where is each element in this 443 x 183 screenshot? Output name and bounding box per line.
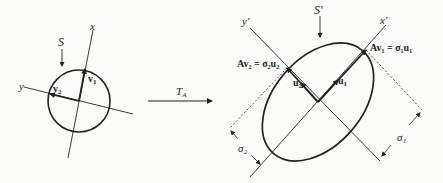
svd-diagram: S x y v1 v2 TA S' x' y' u1 u2 Av₁ = σ₁u₁: [0, 0, 443, 183]
y-axis-label: y: [18, 80, 24, 92]
u2-vector: [301, 83, 318, 102]
circle-label: S: [58, 35, 64, 49]
x-prime-axis-label: x': [379, 14, 388, 26]
ellipse-label: S': [314, 3, 323, 17]
u1-label: u1: [338, 75, 348, 88]
y-prime-axis-label: y': [241, 15, 250, 27]
u1-vector: [318, 80, 338, 102]
unit-circle-group: S x y v1 v2: [18, 20, 133, 158]
equation-1: Av₁ = σ₁u₁: [370, 42, 412, 53]
x-axis-label: x: [89, 20, 95, 32]
sigma1-dim-arrow-top: [409, 113, 420, 125]
sigma2-label: σ₂: [238, 142, 247, 154]
sigma1-label: σ₁: [397, 131, 406, 143]
diagram-canvas: S x y v1 v2 TA S' x' y' u1 u2 Av₁ = σ₁u₁: [0, 0, 443, 183]
transform-arrow-group: TA: [148, 85, 212, 101]
v2-vector: [50, 94, 79, 101]
equation-2: Av₂ = σ₂u₂: [237, 58, 279, 69]
sigma2-dotted-line: [230, 68, 287, 128]
sigma1-dotted-line: [366, 50, 423, 111]
sigma1-dim-arrow-bottom: [382, 145, 391, 156]
u2-label: u2: [293, 77, 303, 90]
v2-label: v2: [53, 83, 62, 96]
sigma2-dim-arrow-top: [231, 131, 238, 139]
transform-label: TA: [176, 85, 187, 99]
sigma2-dim-arrow-bottom: [251, 155, 260, 164]
ellipse-group: S' x' y' u1 u2 Av₁ = σ₁u₁ Av₂ = σ₂u₂ σ₁ …: [230, 3, 423, 182]
v1-vector: [79, 69, 85, 101]
